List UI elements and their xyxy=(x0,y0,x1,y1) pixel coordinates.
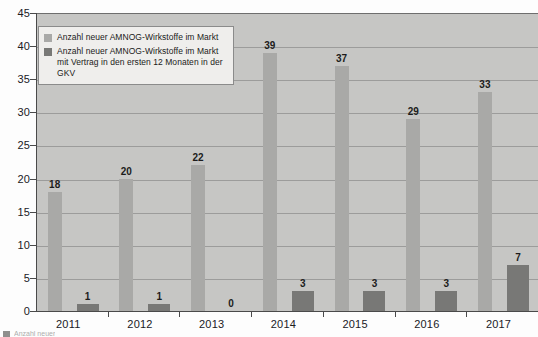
y-axis-tick-mark xyxy=(30,46,36,47)
x-axis-tick-label: 2015 xyxy=(342,318,367,330)
x-axis-tick-mark xyxy=(179,312,180,317)
bar-value-label: 29 xyxy=(408,106,419,117)
y-axis-tick-label: 0 xyxy=(4,305,30,317)
bar-series-total xyxy=(406,119,420,311)
y-axis-tick-mark xyxy=(30,179,36,180)
y-axis-tick-mark xyxy=(30,79,36,80)
y-axis-tick-mark xyxy=(30,145,36,146)
bar-series-contract xyxy=(148,304,170,311)
bar-value-label: 1 xyxy=(157,291,163,302)
bar-value-label: 20 xyxy=(121,166,132,177)
y-axis-tick-label: 5 xyxy=(4,272,30,284)
bar-series-total xyxy=(48,192,62,311)
gridline xyxy=(36,213,538,214)
bar-series-contract xyxy=(435,291,457,311)
x-axis-tick-mark xyxy=(395,312,396,317)
y-axis-tick-label: 10 xyxy=(4,239,30,251)
bar-value-label: 3 xyxy=(372,278,378,289)
gridline xyxy=(36,279,538,280)
bar-series-contract xyxy=(77,304,99,311)
legend-swatch-icon xyxy=(3,331,10,337)
y-axis-tick-label: 40 xyxy=(4,40,30,52)
legend-item: Anzahl neuer AMNOG-Wirkstoffe im Markt m… xyxy=(44,46,227,79)
y-axis-tick-mark xyxy=(30,112,36,113)
y-axis-tick-mark xyxy=(30,13,36,14)
x-axis-tick-label: 2017 xyxy=(486,318,511,330)
x-axis-tick-label: 2011 xyxy=(56,318,80,330)
cutoff-footer-legend: Anzahl neuer xyxy=(3,330,55,337)
bar-value-label: 39 xyxy=(264,40,275,51)
y-axis-tick-label: 30 xyxy=(4,106,30,118)
y-axis-tick-mark xyxy=(30,245,36,246)
x-axis-line xyxy=(30,311,538,312)
x-axis-tick-mark xyxy=(251,312,252,317)
gridline xyxy=(36,246,538,247)
bar-value-label: 1 xyxy=(85,291,91,302)
bar-value-label: 22 xyxy=(193,152,204,163)
gridline xyxy=(36,113,538,114)
x-axis-tick-label: 2013 xyxy=(199,318,224,330)
y-axis-tick-label: 35 xyxy=(4,73,30,85)
x-axis-tick-mark xyxy=(108,312,109,317)
legend-item-label: Anzahl neuer AMNOG-Wirkstoffe im Markt m… xyxy=(57,46,227,79)
y-axis-tick-label: 25 xyxy=(4,139,30,151)
bar-value-label: 3 xyxy=(443,278,449,289)
bar-value-label: 37 xyxy=(336,53,347,64)
legend-item-label: Anzahl neuer AMNOG-Wirkstoffe im Markt xyxy=(57,32,218,43)
y-axis-tick-label: 45 xyxy=(4,7,30,19)
y-axis-tick-mark xyxy=(30,212,36,213)
legend-item: Anzahl neuer AMNOG-Wirkstoffe im Markt xyxy=(44,32,227,43)
y-axis-tick-mark xyxy=(30,278,36,279)
x-axis-tick-label: 2014 xyxy=(271,318,296,330)
x-axis-tick-mark xyxy=(466,312,467,317)
x-axis-tick-label: 2016 xyxy=(414,318,439,330)
bar-value-label: 7 xyxy=(515,252,521,263)
bar-chart: 0510152025303540452011201220132014201520… xyxy=(0,0,538,337)
y-axis-tick-label: 20 xyxy=(4,173,30,185)
bar-series-total xyxy=(119,179,133,311)
bar-value-label: 18 xyxy=(49,179,60,190)
x-axis-tick-label: 2012 xyxy=(127,318,152,330)
bar-series-contract xyxy=(507,265,529,311)
bar-series-total xyxy=(335,66,349,311)
bar-series-total xyxy=(191,165,205,311)
chart-legend: Anzahl neuer AMNOG-Wirkstoffe im Markt A… xyxy=(38,26,234,85)
gridline xyxy=(36,180,538,181)
y-axis-tick-mark xyxy=(30,311,36,312)
bar-value-label: 0 xyxy=(228,298,234,309)
bar-series-contract xyxy=(363,291,385,311)
cutoff-footer-label: Anzahl neuer xyxy=(14,330,55,337)
bar-series-contract xyxy=(292,291,314,311)
legend-swatch-icon xyxy=(44,48,52,56)
bar-value-label: 3 xyxy=(300,278,306,289)
bar-series-total xyxy=(263,53,277,311)
bar-series-total xyxy=(478,92,492,311)
bar-value-label: 33 xyxy=(479,79,490,90)
y-axis-line xyxy=(36,13,37,312)
gridline xyxy=(36,146,538,147)
x-axis-tick-mark xyxy=(323,312,324,317)
legend-swatch-icon xyxy=(44,34,52,42)
y-axis-tick-label: 15 xyxy=(4,206,30,218)
